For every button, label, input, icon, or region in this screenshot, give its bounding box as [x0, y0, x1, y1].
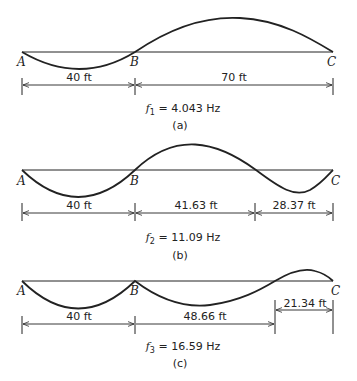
point-label-b: B: [130, 56, 139, 68]
dimension-label: 70 ft: [221, 72, 247, 83]
point-label-c: C: [331, 285, 340, 297]
dimension-label: 28.37 ft: [273, 200, 316, 211]
point-label-c: C: [331, 175, 340, 187]
panel-caption: (a): [172, 120, 187, 131]
frequency-label: f2 = 11.09 Hz: [146, 232, 220, 246]
frequency-subscript: 1: [150, 108, 155, 117]
dimension-label: 40 ft: [66, 200, 92, 211]
panel-caption: (c): [173, 358, 188, 369]
frequency-subscript: 3: [150, 346, 155, 355]
dimension-label: 48.66 ft: [184, 311, 227, 322]
mode-shapes-diagram: [0, 0, 357, 381]
dimension-label: 40 ft: [66, 311, 92, 322]
frequency-value: = 4.043 Hz: [158, 102, 220, 115]
frequency-subscript: 2: [150, 237, 155, 246]
frequency-label: f3 = 16.59 Hz: [146, 341, 220, 355]
dimension-label: 41.63 ft: [175, 200, 218, 211]
dimension-label: 21.34 ft: [284, 298, 327, 309]
mode-shape-curve: [22, 18, 333, 69]
frequency-label: f1 = 4.043 Hz: [146, 103, 220, 117]
mode-shape-curve: [22, 144, 333, 197]
point-label-b: B: [130, 175, 139, 187]
point-label-c: C: [327, 56, 336, 68]
panel-caption: (b): [172, 250, 188, 261]
frequency-value: = 16.59 Hz: [158, 340, 220, 353]
frequency-value: = 11.09 Hz: [158, 231, 220, 244]
point-label-a: A: [17, 175, 26, 187]
point-label-b: B: [130, 285, 139, 297]
point-label-a: A: [17, 56, 26, 68]
dimension-label: 40 ft: [66, 72, 92, 83]
point-label-a: A: [17, 285, 26, 297]
